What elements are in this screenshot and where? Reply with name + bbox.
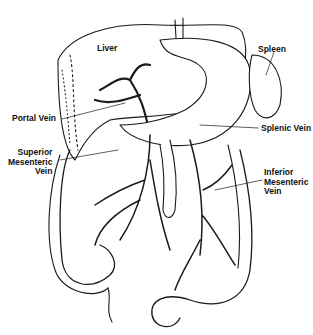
label-liver: Liver xyxy=(97,44,117,54)
leader-inferior-mesenteric xyxy=(215,180,262,190)
label-portal-vein: Portal Vein xyxy=(12,114,56,124)
inferior-mesenteric-vein xyxy=(175,140,235,290)
label-spleen: Spleen xyxy=(258,45,286,55)
label-superior-mesenteric-vein: Superior Mesenteric Vein xyxy=(8,148,52,177)
spleen-shape xyxy=(249,55,281,118)
label-splenic-vein: Splenic Vein xyxy=(261,124,311,134)
label-inferior-mesenteric-vein: Inferior Mesenteric Vein xyxy=(264,168,308,197)
